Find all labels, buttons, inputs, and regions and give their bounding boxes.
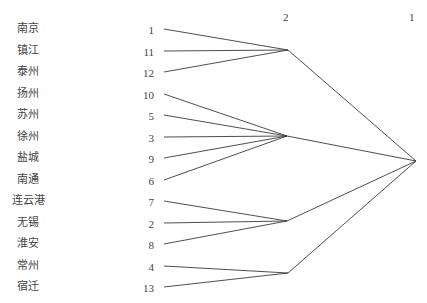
dendrogram-lines — [0, 0, 427, 303]
